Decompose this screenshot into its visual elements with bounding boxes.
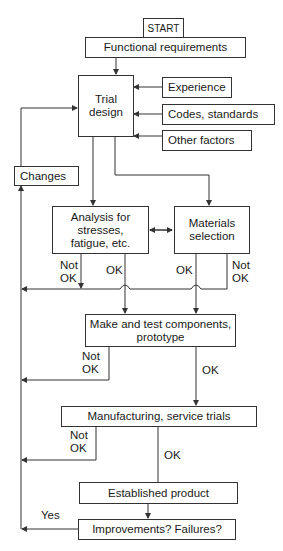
materials-not-ok-label: Not OK <box>232 259 250 284</box>
manufacturing-node: Manufacturing, service trials <box>61 406 257 427</box>
analysis-not-ok-label: Not OK <box>60 259 78 284</box>
make-not-ok-label: Not OK <box>82 350 100 375</box>
codes-standards-node: Codes, standards <box>162 104 275 125</box>
make-and-test-node: Make and test components, prototype <box>85 314 236 347</box>
improvements-node: Improvements? Failures? <box>78 519 236 540</box>
trial-design-node: Trial design <box>78 75 134 137</box>
manufacturing-not-ok-label: Not OK <box>70 429 88 454</box>
changes-node: Changes <box>14 166 79 186</box>
analysis-ok-label: OK <box>106 264 123 277</box>
established-product-node: Established product <box>79 482 238 504</box>
functional-requirements-node: Functional requirements <box>85 37 246 58</box>
yes-label: Yes <box>41 509 60 522</box>
materials-selection-node: Materials selection <box>174 206 250 254</box>
other-factors-node: Other factors <box>162 130 252 151</box>
experience-node: Experience <box>162 77 232 98</box>
start-node: START <box>143 18 184 38</box>
materials-ok-label: OK <box>176 264 193 277</box>
make-ok-label: OK <box>202 364 219 377</box>
analysis-node: Analysis for stresses, fatigue, etc. <box>52 206 149 254</box>
manufacturing-ok-label: OK <box>164 449 181 462</box>
